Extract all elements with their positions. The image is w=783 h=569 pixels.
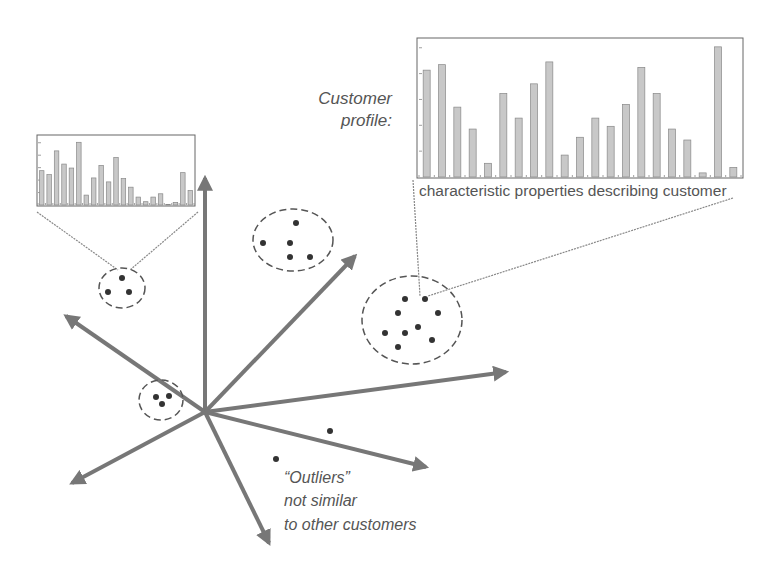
axis-right (205, 372, 506, 412)
point (422, 296, 428, 302)
cluster-right-outline (362, 276, 462, 364)
outlier-point (327, 428, 333, 434)
small-chart-bar (173, 202, 178, 205)
point (287, 254, 293, 260)
point (429, 337, 435, 343)
large-chart-bar (592, 118, 599, 177)
connector-small-left (37, 212, 118, 270)
large-chart-bar (546, 62, 553, 177)
point (415, 324, 421, 330)
cluster-left-outline (139, 380, 183, 420)
large-chart-bar (439, 65, 446, 177)
outliers-label-line1: “Outliers” (284, 469, 350, 486)
point (395, 344, 401, 350)
connector-small-right (130, 212, 198, 270)
point (105, 289, 111, 295)
point (287, 240, 293, 246)
small-chart-bar (121, 179, 126, 205)
large-chart-bar (531, 84, 538, 177)
large-chart-bar (469, 129, 476, 177)
small-chart-bar (129, 187, 134, 205)
large-chart-bar (454, 107, 461, 177)
small-chart-bar (62, 164, 67, 205)
point (119, 275, 125, 281)
small-chart-bar (91, 178, 96, 205)
large-chart-bar (730, 167, 737, 177)
axes-group (66, 178, 506, 543)
small-chart-bar (77, 142, 82, 205)
large-profile-chart (417, 38, 743, 178)
small-chart-bar (39, 171, 44, 205)
large-chart-bar (715, 47, 722, 177)
large-chart-bar (577, 137, 584, 177)
small-chart-bar (166, 204, 171, 205)
axis-lower-right (205, 412, 426, 467)
large-chart-bar (561, 155, 568, 177)
point (126, 289, 132, 295)
profile-label-line1: Customer (318, 89, 393, 108)
outliers-label-line3: to other customers (284, 516, 417, 533)
small-chart-bar (158, 194, 163, 205)
axis-upper-right (205, 256, 355, 412)
axis-upper-left (66, 316, 205, 412)
point (402, 330, 408, 336)
large-chart-bar (638, 67, 645, 177)
axis-lower-left (72, 412, 205, 483)
cluster-top-middle-outline (253, 209, 333, 271)
customer-segmentation-diagram: Customer profile: characteristic propert… (0, 0, 783, 569)
small-chart-bar (47, 175, 52, 205)
point (307, 254, 313, 260)
cluster-top-left-outline (99, 268, 145, 308)
small-profile-chart (37, 135, 195, 206)
small-chart-bar (84, 195, 89, 205)
large-chart-bar (653, 93, 660, 177)
small-chart-bar (69, 168, 74, 205)
point (382, 330, 388, 336)
large-chart-bar (515, 118, 522, 177)
large-chart-bar (607, 126, 614, 177)
large-chart-bar (684, 140, 691, 177)
small-chart-bar (136, 197, 141, 205)
point (293, 220, 299, 226)
small-chart-bar (188, 190, 193, 205)
connector-large-right (428, 198, 733, 296)
point (435, 310, 441, 316)
large-chart-bar (423, 70, 430, 177)
large-chart-bar (500, 93, 507, 177)
chart-caption: characteristic properties describing cus… (419, 182, 727, 199)
small-chart-bar (143, 202, 148, 205)
small-chart-bar (99, 165, 104, 205)
outlier-point (273, 456, 279, 462)
small-chart-bar (181, 173, 186, 205)
point (159, 401, 165, 407)
point (395, 310, 401, 316)
large-chart-bar (623, 104, 630, 177)
point (153, 394, 159, 400)
large-chart-bar (669, 129, 676, 177)
point (260, 240, 266, 246)
large-chart-bar (485, 163, 492, 177)
small-chart-bar (151, 197, 156, 205)
outliers-label-line2: not similar (284, 492, 358, 509)
small-chart-bar (106, 182, 111, 205)
axis-down (205, 412, 269, 543)
clusters (99, 209, 462, 420)
profile-label-line2: profile: (340, 111, 392, 130)
large-chart-bar (699, 173, 706, 177)
small-chart-bar (114, 157, 119, 205)
point (402, 296, 408, 302)
small-chart-bar (54, 151, 59, 205)
point (166, 393, 172, 399)
